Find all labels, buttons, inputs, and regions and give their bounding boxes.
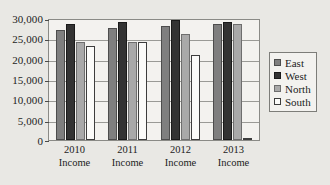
x-axis-category-year: 2012 xyxy=(170,144,191,155)
bar-west xyxy=(66,24,75,140)
plot-area xyxy=(48,19,260,141)
x-axis-category-metric: Income xyxy=(207,157,260,170)
bar-group xyxy=(102,20,155,140)
bar-south xyxy=(191,55,200,140)
y-tick-label: 0 xyxy=(37,135,43,147)
bar-group xyxy=(154,20,207,140)
y-tick-label: 30,000 xyxy=(12,13,43,25)
x-axis-category-metric: Income xyxy=(154,157,207,170)
x-axis-category-year: 2013 xyxy=(223,144,244,155)
bar-east xyxy=(213,24,222,140)
bar-north xyxy=(233,24,242,140)
legend-item-label: West xyxy=(285,70,307,82)
bar-east xyxy=(56,30,65,140)
y-tick-label: 10,000 xyxy=(12,94,43,106)
y-tick-label: 25,000 xyxy=(12,33,43,45)
bar-west xyxy=(171,20,180,140)
x-axis-category-label: 2010Income xyxy=(48,144,101,169)
bar-north xyxy=(76,42,85,140)
bar-east xyxy=(161,26,170,140)
legend-item[interactable]: North xyxy=(274,82,311,95)
y-tick-label: 15,000 xyxy=(12,74,43,86)
bar-group xyxy=(49,20,102,140)
y-tick-label: 20,000 xyxy=(12,54,43,66)
legend-item[interactable]: East xyxy=(274,56,311,69)
legend-swatch-icon xyxy=(274,85,281,92)
bar-north xyxy=(128,42,137,140)
bar-group xyxy=(207,20,260,140)
x-axis-category-metric: Income xyxy=(48,157,101,170)
y-axis-labels: 30,00025,00020,00015,00010,0005,0000 xyxy=(0,0,46,185)
legend-item-label: South xyxy=(285,96,311,108)
legend-item[interactable]: West xyxy=(274,69,311,82)
bar-south xyxy=(138,42,147,140)
legend-swatch-icon xyxy=(274,98,281,105)
legend-item[interactable]: South xyxy=(274,95,311,108)
bar-south xyxy=(243,138,252,140)
x-axis-category-label: 2012Income xyxy=(154,144,207,169)
legend-swatch-icon xyxy=(274,72,281,79)
legend-item-label: East xyxy=(285,57,304,69)
legend-item-label: North xyxy=(285,83,311,95)
x-axis-labels: 2010Income2011Income2012Income2013Income xyxy=(48,144,260,169)
bar-chart: 30,00025,00020,00015,00010,0005,0000 201… xyxy=(0,0,330,185)
x-axis-category-label: 2011Income xyxy=(101,144,154,169)
bar-north xyxy=(181,34,190,140)
bar-west xyxy=(223,22,232,140)
y-tick-label: 5,000 xyxy=(18,115,43,127)
legend-swatch-icon xyxy=(274,59,281,66)
bar-groups xyxy=(49,20,259,140)
bar-south xyxy=(86,46,95,140)
x-axis-category-label: 2013Income xyxy=(207,144,260,169)
y-axis-tickmark xyxy=(45,141,49,142)
x-axis-category-metric: Income xyxy=(101,157,154,170)
chart-legend: EastWestNorthSouth xyxy=(269,52,317,112)
x-axis-category-year: 2010 xyxy=(64,144,85,155)
bar-east xyxy=(108,28,117,140)
bar-west xyxy=(118,22,127,140)
x-axis-category-year: 2011 xyxy=(117,144,138,155)
